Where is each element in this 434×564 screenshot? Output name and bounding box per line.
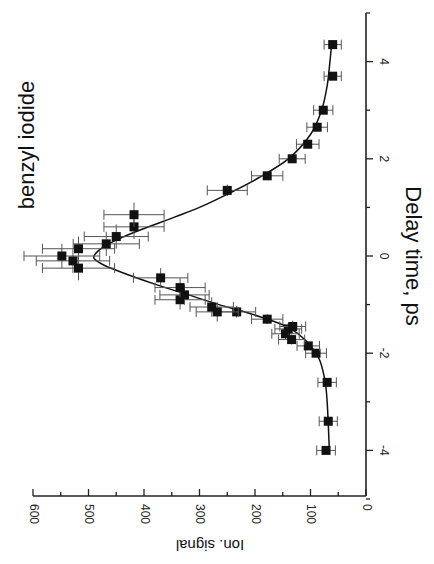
signal-tick-label: 400 <box>138 504 152 524</box>
signal-tick-label: 0 <box>360 504 374 511</box>
signal-axis-title: Ion. signal <box>176 537 244 554</box>
square-marker <box>176 283 185 292</box>
axis-labels: 0100200300400500600-4-2024Delay time, ps… <box>14 58 426 554</box>
square-marker <box>57 252 66 261</box>
square-marker <box>223 186 232 195</box>
data-point <box>324 71 341 81</box>
square-marker <box>313 123 322 132</box>
square-marker <box>263 171 272 180</box>
data-point <box>24 244 100 268</box>
delay-tick-label: 4 <box>377 58 391 65</box>
delay-tick-label: -2 <box>377 348 391 359</box>
delay-axis-title: Delay time, ps <box>401 186 426 325</box>
square-marker <box>112 232 121 241</box>
signal-tick-label: 500 <box>82 504 96 524</box>
square-marker <box>319 106 328 115</box>
data-point <box>314 105 333 115</box>
data-point <box>84 224 148 248</box>
chart-canvas: 0100200300400500600-4-2024Delay time, ps… <box>0 0 434 564</box>
square-marker <box>328 72 337 81</box>
square-marker <box>130 210 139 219</box>
data-point <box>104 203 164 227</box>
square-marker <box>328 40 337 49</box>
data-point <box>317 445 336 455</box>
annotation-label: benzyl iodide <box>14 81 39 209</box>
data-points <box>24 40 341 456</box>
delay-tick-label: 0 <box>377 253 391 260</box>
square-marker <box>207 303 216 312</box>
data-point <box>318 377 336 387</box>
data-point <box>324 40 341 50</box>
square-marker <box>68 256 77 265</box>
data-point <box>73 232 139 256</box>
square-marker <box>74 244 83 253</box>
signal-tick-label: 300 <box>193 504 207 524</box>
signal-tick-label: 100 <box>304 504 318 524</box>
square-marker <box>323 378 332 387</box>
square-marker <box>288 322 297 331</box>
data-point <box>196 302 238 321</box>
signal-tick-label: 200 <box>249 504 263 524</box>
fit-curve <box>94 45 332 451</box>
data-point <box>36 249 109 273</box>
square-marker <box>324 417 333 426</box>
fit-line <box>94 45 332 451</box>
square-marker <box>102 239 111 248</box>
square-marker <box>322 446 331 455</box>
data-point <box>319 416 337 426</box>
square-marker <box>303 140 312 149</box>
signal-tick-label: 600 <box>27 504 41 524</box>
delay-tick-label: -4 <box>377 445 391 456</box>
delay-tick-label: 2 <box>377 155 391 162</box>
data-point <box>207 185 247 197</box>
square-marker <box>156 273 165 282</box>
square-marker <box>263 315 272 324</box>
data-point <box>307 122 328 132</box>
square-marker <box>288 154 297 163</box>
